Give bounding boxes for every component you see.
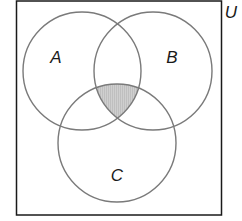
venn-diagram: A B C U [0, 0, 242, 221]
set-a-label: A [49, 48, 61, 67]
set-b-label: B [166, 48, 177, 67]
universe-label: U [225, 3, 238, 22]
set-c-label: C [111, 166, 124, 185]
